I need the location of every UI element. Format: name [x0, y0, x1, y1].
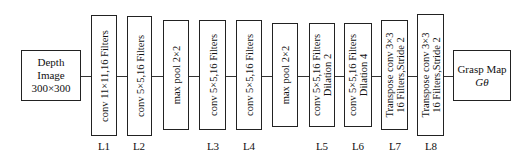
label-l6: L6 [343, 140, 373, 152]
layer-text: conv 5×5,16 Filters [311, 34, 322, 116]
label-l3: L3 [198, 140, 228, 152]
layer-text: conv 5×5,16 Filters [207, 34, 218, 116]
output-line1: Grasp Map [457, 63, 506, 76]
layer-text: 16 Filters,Stride 2 [431, 33, 442, 118]
layer-text: max pool 2×2 [171, 46, 182, 104]
input-line1: Depth [38, 56, 65, 69]
layer-conv-l3: conv 5×5,16 Filters [199, 20, 226, 130]
layer-conv-l1: conv 11×11,16 Filters [91, 15, 117, 136]
layer-text: Transpose conv 3×3 [420, 33, 431, 118]
label-l1: L1 [89, 140, 119, 152]
layer-conv-l6: conv 5×5,16 FiltersDilation 4 [344, 23, 372, 127]
layer-text: Transpose conv 3×3 [384, 33, 395, 118]
input-depth-image: Depth Image 300×300 [21, 50, 81, 101]
layer-text: 16 Filters,Stride 2 [395, 33, 406, 118]
layer-maxpool-1: max pool 2×2 [163, 20, 189, 130]
layer-conv-l5: conv 5×5,16 FiltersDilation 2 [309, 23, 335, 127]
label-l2: L2 [124, 140, 154, 152]
layer-text: conv 5×5,16 Filters [134, 35, 145, 117]
input-line2: Image [37, 69, 64, 82]
layer-text: Dilation 4 [358, 34, 369, 116]
label-l7: L7 [380, 140, 410, 152]
layer-text: conv 11×11,16 Filters [99, 30, 110, 122]
layer-maxpool-2: max pool 2×2 [272, 23, 298, 127]
layer-transpose-l8: Transpose conv 3×316 Filters,Stride 2 [417, 14, 444, 136]
layer-transpose-l7: Transpose conv 3×316 Filters,Stride 2 [381, 20, 408, 130]
layer-text: max pool 2×2 [280, 46, 291, 104]
output-line2: Gθ [475, 76, 488, 89]
label-l5: L5 [307, 140, 337, 152]
layer-conv-l4: conv 5×5,16 Filters [236, 20, 262, 130]
layer-text: Dilation 2 [322, 34, 333, 116]
output-grasp-map: Grasp Map Gθ [453, 50, 511, 101]
label-l8: L8 [416, 140, 446, 152]
layer-text: conv 5×5,16 Filters [244, 34, 255, 116]
layer-text: conv 5×5,16 Filters [347, 34, 358, 116]
layer-conv-l2: conv 5×5,16 Filters [127, 16, 152, 136]
label-l4: L4 [234, 140, 264, 152]
input-line3: 300×300 [31, 82, 70, 95]
